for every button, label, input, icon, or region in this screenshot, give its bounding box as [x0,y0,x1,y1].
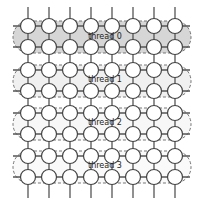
grid-node [147,84,162,99]
grid-node [105,40,120,55]
grid-node [105,170,120,185]
grid-node [105,84,120,99]
grid-node [147,149,162,164]
grid-node [168,63,183,78]
grid-node [21,149,36,164]
grid-node [21,40,36,55]
grid-node [63,84,78,99]
thread-grid-diagram: thread 0 thread 1 thread 2 thread 3 [0,0,200,205]
grid-node [147,63,162,78]
grid-node [126,149,141,164]
grid-node [147,40,162,55]
thread-2-label: thread 2 [88,118,122,127]
grid-node [42,19,57,34]
grid-node [126,19,141,34]
grid-node [63,170,78,185]
grid-node [63,149,78,164]
grid-node [42,84,57,99]
grid-node [126,127,141,142]
grid-node [168,149,183,164]
grid-node [126,63,141,78]
grid-node [168,84,183,99]
grid-node [84,127,99,142]
grid-node [168,106,183,121]
grid-node [21,127,36,142]
grid-node [147,106,162,121]
grid-node [126,170,141,185]
grid-node [84,84,99,99]
thread-regions [13,21,191,183]
thread-3-label: thread 3 [88,161,122,170]
grid-node [84,170,99,185]
grid-node [168,127,183,142]
grid-node [63,40,78,55]
grid-node [21,170,36,185]
grid-node [63,106,78,121]
grid-node [126,106,141,121]
grid-node [147,170,162,185]
grid-node [63,19,78,34]
grid-node [42,170,57,185]
thread-0-label: thread 0 [88,32,122,41]
grid-node [168,19,183,34]
grid-node [42,63,57,78]
grid-node [42,40,57,55]
grid-node [63,63,78,78]
grid-node [126,40,141,55]
grid-node [63,127,78,142]
grid-node [168,40,183,55]
grid-node [105,127,120,142]
grid-node [21,106,36,121]
thread-1-label: thread 1 [88,75,122,84]
grid-node [42,149,57,164]
grid-node [42,127,57,142]
grid-node [21,63,36,78]
grid-node [42,106,57,121]
grid-node [168,170,183,185]
grid-node [126,84,141,99]
grid-node [84,40,99,55]
grid-node [147,127,162,142]
grid-node [21,19,36,34]
grid-node [147,19,162,34]
grid-node [21,84,36,99]
